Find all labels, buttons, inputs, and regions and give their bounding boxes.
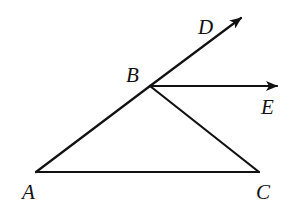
point-label-c: C [256, 180, 271, 204]
point-label-a: A [20, 180, 35, 204]
segment-BC [150, 86, 259, 172]
point-label-b: B [126, 63, 139, 87]
ray-BD [150, 18, 241, 86]
geometry-diagram: ABCDE [0, 0, 292, 218]
point-label-d: D [197, 15, 213, 39]
segment-AB [36, 86, 150, 172]
point-label-e: E [260, 95, 274, 119]
